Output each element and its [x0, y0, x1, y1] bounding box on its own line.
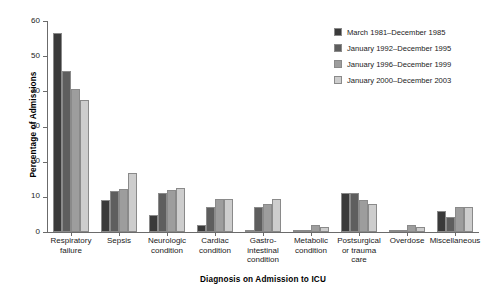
bar-group — [197, 21, 233, 232]
bar-group — [101, 21, 137, 232]
bar — [320, 227, 329, 232]
y-axis-tick: 10 — [0, 197, 47, 198]
y-axis-tick: 0 — [0, 232, 47, 233]
legend-color-swatch — [334, 60, 342, 68]
bar — [53, 33, 62, 232]
bar — [254, 207, 263, 232]
bar — [224, 199, 233, 232]
legend-item: March 1981–December 1985 — [334, 25, 494, 39]
legend-label: January 1996–December 1999 — [347, 60, 451, 69]
y-axis-tick: 20 — [0, 162, 47, 163]
bar — [416, 227, 425, 232]
y-tick-label: 20 — [31, 156, 40, 165]
x-axis-title: Diagnosis on Admission to ICU — [47, 275, 479, 284]
bar — [158, 193, 167, 232]
bar — [215, 199, 224, 232]
y-tick-label: 10 — [31, 191, 40, 200]
y-axis-tick: 50 — [0, 56, 47, 57]
bar — [311, 225, 320, 232]
legend-item: January 1996–December 1999 — [334, 57, 494, 71]
bar — [302, 230, 311, 232]
y-tick-label: 30 — [31, 121, 40, 130]
x-tick-label-line: failure — [40, 246, 102, 256]
y-axis-tick: 60 — [0, 21, 47, 22]
bar — [71, 89, 80, 232]
bar — [437, 211, 446, 232]
bar — [464, 207, 473, 232]
x-tick-label-line: Miscellaneous — [424, 236, 486, 246]
y-tick-label: 50 — [31, 51, 40, 60]
bar-group — [293, 21, 329, 232]
y-tick-mark — [43, 232, 47, 233]
bar — [272, 199, 281, 232]
bar-group — [245, 21, 281, 232]
legend-color-swatch — [334, 44, 342, 52]
x-tick-label-line: care — [328, 255, 390, 265]
bar — [398, 230, 407, 232]
legend-color-swatch — [334, 76, 342, 84]
y-tick-label: 40 — [31, 86, 40, 95]
bar-group — [53, 21, 89, 232]
bar — [350, 193, 359, 232]
legend-color-swatch — [334, 28, 342, 36]
y-axis-tick: 30 — [0, 127, 47, 128]
bar — [101, 200, 110, 232]
bar — [341, 193, 350, 232]
bar — [359, 200, 368, 232]
bar — [263, 204, 272, 232]
bar — [119, 189, 128, 232]
bar — [407, 225, 416, 232]
bar — [80, 100, 89, 232]
bar — [149, 215, 158, 232]
x-axis-tick-labels: RespiratoryfailureSepsisNeurologiccondit… — [47, 236, 479, 280]
bar — [197, 225, 206, 232]
bar — [368, 204, 377, 232]
y-axis-tick: 40 — [0, 91, 47, 92]
bar — [389, 230, 398, 232]
bar — [245, 230, 254, 232]
bar-group — [149, 21, 185, 232]
bar — [206, 207, 215, 232]
bar — [167, 190, 176, 232]
x-tick-label-line: or trauma — [328, 246, 390, 256]
bar — [176, 188, 185, 232]
bar — [455, 207, 464, 232]
bar — [62, 71, 71, 232]
y-tick-label: 0 — [36, 227, 40, 236]
y-tick-label: 60 — [31, 16, 40, 25]
legend-label: March 1981–December 1985 — [347, 28, 445, 37]
legend-item: January 2000–December 2003 — [334, 73, 494, 87]
x-tick-label: Miscellaneous — [424, 236, 486, 246]
legend-item: January 1992–December 1995 — [334, 41, 494, 55]
bar — [128, 173, 137, 232]
bar — [446, 217, 455, 232]
legend-label: January 1992–December 1995 — [347, 44, 451, 53]
bar-chart-figure: Percentage of Admissions 0102030405060 R… — [0, 0, 496, 294]
legend-label: January 2000–December 2003 — [347, 76, 451, 85]
bar — [110, 191, 119, 232]
bar — [293, 230, 302, 232]
chart-legend: March 1981–December 1985January 1992–Dec… — [334, 25, 494, 89]
x-tick-label-line: condition — [232, 255, 294, 265]
